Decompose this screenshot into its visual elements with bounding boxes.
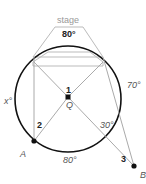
arc-label-left: x° — [4, 97, 12, 106]
point-b-marker — [131, 163, 136, 168]
angle-label-30: 30° — [100, 121, 114, 130]
angle-label-2: 2 — [37, 121, 42, 130]
arc-label-right: 70° — [127, 81, 141, 90]
line-q-top-left — [34, 62, 68, 97]
arc-label-bottom: 80° — [63, 156, 77, 165]
point-q-marker — [66, 95, 71, 100]
point-a-marker — [31, 138, 36, 143]
stage-label: stage — [57, 16, 79, 25]
line-q-top-right — [68, 62, 103, 97]
point-label-b: B — [140, 171, 146, 180]
line-a-q — [34, 97, 68, 141]
arc-label-top: 80° — [62, 30, 76, 39]
point-label-q: Q — [66, 101, 73, 110]
stage-inner-shape — [33, 52, 103, 66]
angle-label-1: 1 — [66, 86, 71, 95]
angle-label-3: 3 — [121, 155, 126, 164]
point-label-a: A — [20, 150, 26, 159]
